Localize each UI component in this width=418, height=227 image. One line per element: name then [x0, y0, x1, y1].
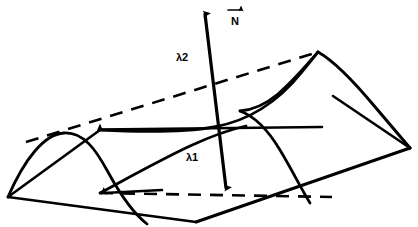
base-edge-right-front — [196, 148, 410, 222]
lambda1-label: λ1 — [186, 151, 198, 163]
lambda2-label: λ2 — [176, 51, 188, 63]
surface-curves-group — [8, 52, 410, 224]
surface-curve-centre-trough — [100, 52, 318, 132]
lambda1-lower-axis-line — [104, 190, 162, 193]
lambda1-axis-line — [100, 127, 322, 130]
base-edge-left-front — [8, 197, 196, 222]
dashed-lines-group — [26, 52, 332, 197]
surface-curve-right-left-flank — [240, 52, 318, 111]
surface-curve-valley-front — [240, 111, 310, 203]
figure-container: λ2 λ1 N — [0, 0, 418, 227]
surface-curve-right-descent — [318, 52, 410, 148]
normal-axis-line — [205, 14, 226, 188]
base-plane-group — [8, 96, 410, 222]
normal-vector-label: N — [231, 15, 239, 27]
surface-diagram-svg: λ2 λ1 N — [0, 0, 418, 227]
dashed-baseline — [100, 193, 332, 197]
